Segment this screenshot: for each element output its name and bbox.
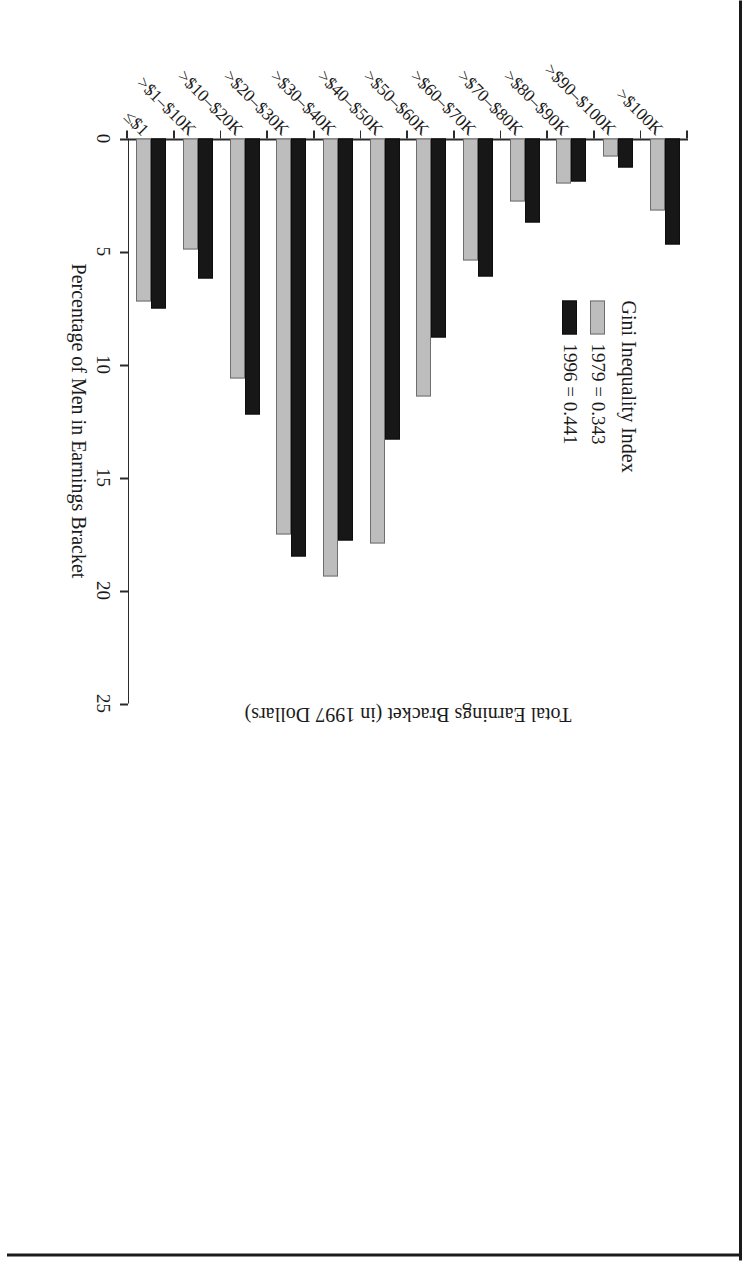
value-axis-title: Percentage of Men in Earnings Bracket [67,138,90,703]
legend-label-1996: 1996 = 0.441 [559,343,581,444]
bar-group [370,138,400,703]
bar-1996 [431,138,446,337]
bar-1979 [650,138,665,210]
bar-1996 [571,138,586,181]
bar-1996 [338,138,353,540]
bar-group [230,138,260,703]
bar-group [510,138,540,703]
bar-1979 [136,138,151,301]
bar-group [183,138,213,703]
value-tick-label: 25 [92,694,114,713]
page-rule-top [739,0,742,1260]
value-tick [120,477,128,479]
bar-1979 [416,138,431,396]
bar-1996 [525,138,540,222]
bar-1996 [665,138,680,244]
legend: Gini Inequality Index 1979 = 0.343 1996 … [553,300,640,472]
value-tick-label: 10 [92,355,114,374]
bar-group [323,138,353,703]
bar-1996 [618,138,633,167]
bar-1996 [151,138,166,308]
bar-1979 [370,138,385,543]
bar-1979 [276,138,291,534]
page-rule-left [7,1253,742,1256]
value-tick [120,703,128,705]
bar-1996 [478,138,493,276]
category-tick [127,130,129,138]
bar-1996 [385,138,400,439]
bar-1979 [183,138,198,249]
legend-swatch-1996-icon [563,300,578,334]
bar-1979 [323,138,338,576]
value-tick [120,364,128,366]
category-tick [313,130,315,138]
legend-label-1979: 1979 = 0.343 [587,343,609,444]
bar-group [136,138,166,703]
bar-1979 [510,138,525,201]
value-tick-label: 20 [92,581,114,600]
legend-title: Gini Inequality Index [617,300,640,472]
category-tick [453,130,455,138]
category-tick [220,130,222,138]
legend-item-1979: 1979 = 0.343 [587,300,609,472]
figure-frame: 0510152025 ≤$1>$1–$10K>$10–$20K>$20–$30K… [0,0,750,1267]
bar-group [276,138,306,703]
value-tick-label: 5 [92,246,114,256]
category-tick [687,130,689,138]
category-tick [267,130,269,138]
value-tick [120,590,128,592]
bar-1979 [463,138,478,260]
category-axis-title: Total Earnings Bracket (in 1997 Dollars) [128,703,688,725]
bar-group [650,138,680,703]
bar-1996 [198,138,213,278]
legend-swatch-1979-icon [591,300,606,334]
value-axis-line [128,138,130,703]
category-tick [640,130,642,138]
category-label: >$100K [611,84,672,145]
value-tick-label: 15 [92,468,114,487]
category-tick [500,130,502,138]
bar-1996 [245,138,260,414]
category-tick [593,130,595,138]
category-tick [407,130,409,138]
bar-group [416,138,446,703]
bar-group [463,138,493,703]
category-tick [547,130,549,138]
bar-1979 [230,138,245,378]
figure-rotator: 0510152025 ≤$1>$1–$10K>$10–$20K>$20–$30K… [0,0,750,1267]
category-tick [360,130,362,138]
category-tick [173,130,175,138]
value-tick [120,251,128,253]
bar-1996 [291,138,306,556]
value-tick-label: 0 [92,133,114,143]
legend-item-1996: 1996 = 0.441 [559,300,581,472]
